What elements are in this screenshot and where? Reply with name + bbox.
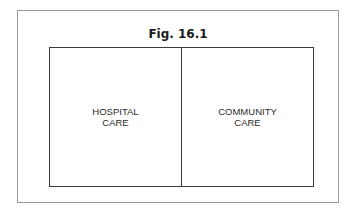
figure-title: Fig. 16.1	[0, 27, 356, 41]
cell-label-line1: COMMUNITY	[218, 106, 277, 117]
cell-label-line2: CARE	[92, 117, 138, 128]
diagram-box: HOSPITAL CARE COMMUNITY CARE	[49, 47, 314, 187]
cell-hospital-care: HOSPITAL CARE	[50, 48, 182, 186]
cell-community-care: COMMUNITY CARE	[182, 48, 313, 186]
cell-label-line1: HOSPITAL	[92, 106, 138, 117]
cell-label-line2: CARE	[218, 117, 277, 128]
